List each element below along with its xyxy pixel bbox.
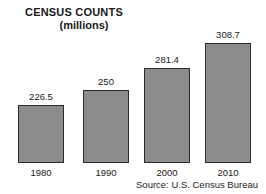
bar-group-2010: 308.7 2010 [205, 43, 251, 163]
bar-group-1990: 250 1990 [83, 90, 129, 163]
bar-value-label: 281.4 [155, 54, 179, 65]
x-axis-tick-label: 2000 [156, 167, 177, 178]
bar [144, 68, 190, 163]
bar-value-label: 226.5 [29, 91, 53, 102]
x-axis-tick-label: 1990 [95, 167, 116, 178]
x-axis-tick-label: 1980 [30, 167, 51, 178]
bar [205, 43, 251, 163]
census-counts-bar-chart: CENSUS COUNTS (millions) 226.5 1980 250 … [0, 0, 266, 194]
bar-value-label: 308.7 [216, 29, 240, 40]
bar-group-1980: 226.5 1980 [18, 105, 64, 163]
x-axis-tick-label: 2010 [217, 167, 238, 178]
plot-area: 226.5 1980 250 1990 281.4 2000 308.7 201… [0, 0, 266, 194]
bar [18, 105, 64, 163]
bar [83, 90, 129, 163]
source-note: Source: U.S. Census Bureau [136, 179, 258, 190]
bar-group-2000: 281.4 2000 [144, 68, 190, 163]
bar-value-label: 250 [98, 76, 114, 87]
